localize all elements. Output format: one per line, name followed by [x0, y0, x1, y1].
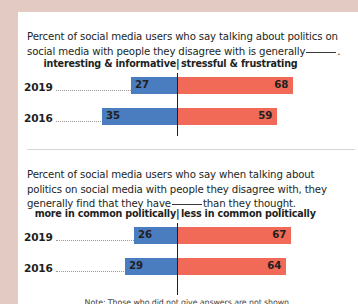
chart-2-legend-separator: | — [176, 208, 180, 219]
fill-in-blank-rule — [172, 204, 202, 205]
chart-1-value-left-2019: 27 — [135, 79, 149, 90]
footnote: Note: Those who did not give answers are… — [18, 298, 358, 304]
chart-2-bar-right-2019: 67 — [178, 227, 291, 244]
chart-1-bar-left-2016: 35 — [102, 108, 177, 125]
chart-2-row-2016: 2016 29 64 — [18, 258, 358, 278]
chart-1-intro-part1: Percent of social media users who say ta… — [27, 31, 338, 57]
chart-2-bar-right-2016: 64 — [178, 258, 286, 275]
chart-2-year-label-2016: 2016 — [24, 262, 53, 274]
chart-1-leader-2019 — [56, 90, 131, 91]
chart-2-legend-right-label: less in common politically — [181, 208, 316, 219]
chart-1-bar-left-2019: 27 — [131, 77, 177, 94]
chart-1-year-label-2019: 2019 — [24, 81, 53, 93]
chart-1-intro-part2: . — [337, 46, 340, 57]
chart-2-legend: more in common politically | less in com… — [18, 208, 358, 223]
chart-1-bar-right-2019: 68 — [178, 77, 293, 94]
chart-1-year-label-2016: 2016 — [24, 112, 53, 124]
chart-2-intro-text: Percent of social media users who say wh… — [27, 168, 352, 212]
chart-1-bar-right-2016: 59 — [178, 108, 277, 125]
chart-2-value-left-2016: 29 — [129, 260, 143, 271]
chart-2-value-right-2019: 67 — [272, 229, 286, 240]
chart-1-legend: interesting & informative | stressful & … — [18, 58, 358, 73]
chart-1-value-left-2016: 35 — [106, 110, 120, 121]
chart-2-bar-left-2019: 26 — [134, 227, 177, 244]
chart-1-intro-text: Percent of social media users who say ta… — [27, 30, 352, 59]
chart-1-legend-right-label: stressful & frustrating — [181, 58, 298, 69]
chart-1-value-right-2016: 59 — [258, 110, 272, 121]
chart-2-bar-left-2016: 29 — [125, 258, 177, 275]
chart-2-leader-2019 — [56, 240, 134, 241]
chart-2-value-right-2016: 64 — [267, 260, 281, 271]
chart-2-value-left-2019: 26 — [138, 229, 152, 240]
chart-2-leader-2016 — [56, 271, 124, 272]
chart-1-legend-left-label: interesting & informative — [44, 58, 177, 69]
chart-1-center-axis — [177, 73, 178, 136]
chart-2-legend-left-label: more in common politically — [35, 208, 176, 219]
chart-1-leader-2016 — [56, 121, 101, 122]
infographic-card: Percent of social media users who say ta… — [18, 12, 358, 304]
chart-1-row-2016: 2016 35 59 — [18, 108, 358, 128]
chart-1: interesting & informative | stressful & … — [18, 58, 358, 128]
chart-2: more in common politically | less in com… — [18, 208, 358, 278]
chart-1-row-2019: 2019 27 68 — [18, 77, 358, 97]
chart-2-year-label-2019: 2019 — [24, 231, 53, 243]
section-divider — [27, 149, 355, 150]
chart-2-center-axis — [177, 223, 178, 295]
chart-2-row-2019: 2019 26 67 — [18, 227, 358, 247]
chart-1-value-right-2019: 68 — [274, 79, 288, 90]
chart-1-legend-separator: | — [176, 58, 180, 69]
fill-in-blank-rule — [306, 52, 336, 53]
